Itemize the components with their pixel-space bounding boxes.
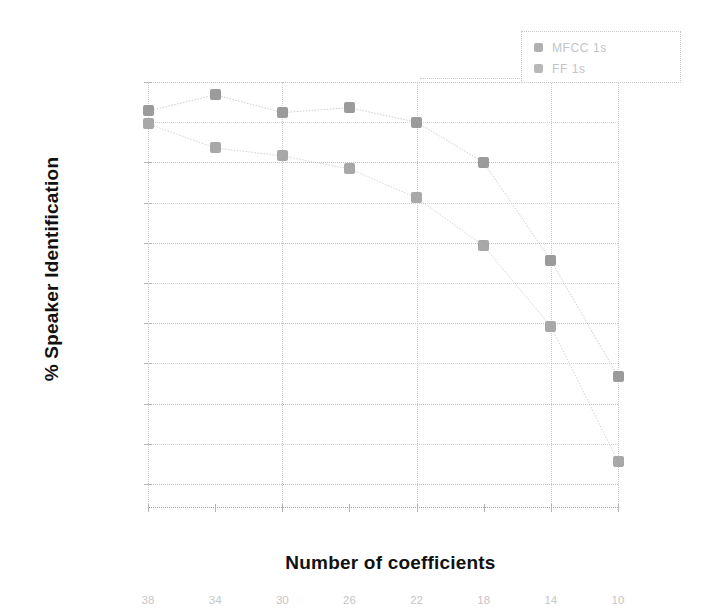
data-point-ff-14 bbox=[545, 321, 556, 332]
x-tick-label: 38 bbox=[118, 594, 178, 606]
data-point-ff-34 bbox=[210, 142, 221, 153]
series-line-ff bbox=[148, 124, 618, 462]
x-tick-label: 26 bbox=[319, 594, 379, 606]
x-tick-label: 34 bbox=[185, 594, 245, 606]
gridline-x-10 bbox=[618, 82, 619, 508]
data-point-ff-30 bbox=[277, 150, 288, 161]
x-tick-label: 14 bbox=[521, 594, 581, 606]
x-tick-label: 30 bbox=[252, 594, 312, 606]
data-point-ff-18 bbox=[478, 240, 489, 251]
x-tick-label: 10 bbox=[588, 594, 648, 606]
data-point-mfcc-22 bbox=[411, 117, 422, 128]
chart-figure: % Speaker Identification 8582.58077.5757… bbox=[0, 0, 701, 609]
data-point-mfcc-26 bbox=[344, 102, 355, 113]
data-point-mfcc-18 bbox=[478, 157, 489, 168]
legend-item-mfcc: MFCC 1s bbox=[530, 37, 672, 58]
data-point-mfcc-14 bbox=[545, 255, 556, 266]
data-point-mfcc-38 bbox=[143, 105, 154, 116]
legend-box: MFCC 1s FF 1s bbox=[521, 31, 681, 83]
data-point-mfcc-30 bbox=[277, 107, 288, 118]
data-point-mfcc-34 bbox=[210, 89, 221, 100]
legend-item-ff: FF 1s bbox=[530, 58, 672, 79]
square-marker-icon bbox=[534, 64, 543, 73]
legend-label-ff: FF 1s bbox=[552, 62, 586, 76]
x-axis-title: Number of coefficients bbox=[0, 552, 701, 574]
data-point-ff-38 bbox=[143, 118, 154, 129]
legend-leader-line bbox=[420, 78, 522, 79]
x-tickmark bbox=[618, 504, 619, 512]
legend-label-mfcc: MFCC 1s bbox=[552, 41, 607, 55]
data-point-ff-10 bbox=[613, 456, 624, 467]
data-point-ff-26 bbox=[344, 163, 355, 174]
x-axis-title-text: Number of coefficients bbox=[285, 552, 495, 574]
y-axis-title: % Speaker Identification bbox=[41, 99, 63, 439]
series-line-mfcc bbox=[148, 95, 618, 376]
x-tick-label: 22 bbox=[387, 594, 447, 606]
data-point-ff-22 bbox=[411, 192, 422, 203]
diamond-marker-icon bbox=[534, 43, 543, 52]
data-point-mfcc-10 bbox=[613, 371, 624, 382]
plot-area: 8582.58077.57572.57067.56562.560 3834302… bbox=[148, 82, 618, 508]
x-tick-label: 18 bbox=[454, 594, 514, 606]
